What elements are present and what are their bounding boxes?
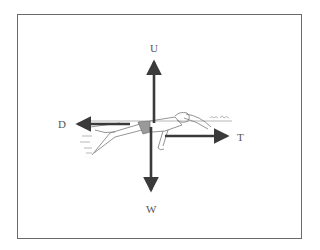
label-drag: D <box>58 118 66 130</box>
label-weight: W <box>146 203 157 215</box>
label-thrust: T <box>237 131 244 143</box>
label-up: U <box>150 42 158 54</box>
water-sketch <box>80 116 232 153</box>
force-diagram: U W D T <box>0 0 320 250</box>
